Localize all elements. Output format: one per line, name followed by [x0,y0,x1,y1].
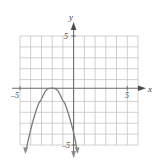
y-axis-arrowhead-bottom [71,151,76,158]
x-axis-label: x [147,84,152,94]
y-tick-label-minus-five: –5 [61,141,70,150]
parabola-arrowhead-right [75,147,80,154]
parabola-curve [23,88,79,154]
y-tick-label-five: 5 [64,32,68,41]
y-axis-label: y [68,12,73,22]
x-tick-label-five: 5 [125,91,129,100]
x-tick-label-minus-five: –5 [10,91,19,100]
graph-screenshot: –5 5 5 –5 y x [0,0,158,160]
coordinate-plane-figure: –5 5 5 –5 y x [0,0,158,160]
parabola-arrowhead-left [23,147,28,154]
x-axis-arrowhead [138,85,146,91]
grid-lines [20,36,138,145]
y-axis-arrowhead [71,22,77,30]
y-axis [71,22,77,158]
